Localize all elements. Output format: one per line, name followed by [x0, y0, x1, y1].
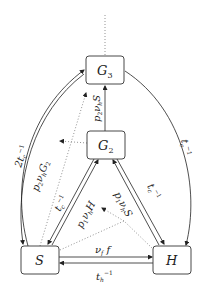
label-tc-inv-right: tc−1 [178, 138, 194, 156]
edge-g3-h [125, 71, 191, 245]
label-tc-inv-g2h: tc−1 [144, 181, 163, 201]
state-diagram: G3 G2 S H p2νhS 2tc−1 p2νhG2 tc−1 tc−1 p… [0, 0, 211, 297]
svg-text:S: S [35, 253, 44, 268]
edge-s-g3-inner [21, 74, 84, 244]
label-th-inv: th−1 [96, 269, 113, 283]
dotted-edge-g2-left [60, 141, 87, 143]
edge-s-g3-outer [22, 70, 84, 246]
dotted-edge-s-mid [60, 221, 124, 250]
label-p2-vh-g2: p2νhG2 [30, 159, 52, 193]
label-p1-vh-h: p1νhH [74, 199, 98, 230]
label-tc-inv-left: tc−1 [51, 193, 70, 213]
label-vf-f: νf f [95, 244, 113, 257]
node-g2: G2 [87, 131, 125, 159]
label-2tc-inv: 2tc−1 [11, 143, 31, 169]
node-s: S [21, 246, 59, 274]
node-h: H [153, 246, 191, 274]
label-p2-vh-s: p2νhS [91, 95, 103, 122]
node-g3: G3 [86, 56, 124, 84]
svg-text:H: H [165, 253, 178, 268]
